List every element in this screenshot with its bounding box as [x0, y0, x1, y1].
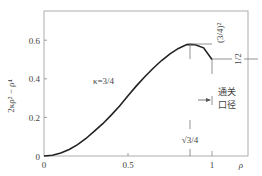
- half-value-label: 1/2: [233, 53, 243, 65]
- kappa-label: κ=3/4: [93, 76, 115, 86]
- x-tick-label: 1: [210, 160, 215, 170]
- x-ticks: [128, 151, 212, 156]
- y-tick-label: 0.2: [29, 113, 40, 123]
- chart: 0 0.2 0.4 0.6 0 0.5 1 ρ 2κρ² − ρ⁴ (3/4)²…: [0, 0, 262, 176]
- aperture-label-1: 通关: [218, 86, 236, 97]
- aperture-arrow-icon: [198, 98, 211, 102]
- x-tick-label: 0.5: [122, 160, 134, 170]
- sqrt-label: √3/4: [182, 135, 199, 145]
- half-marker: [212, 59, 258, 105]
- x-axis-label: ρ: [238, 160, 244, 170]
- y-axis-label: 2κρ² − ρ⁴: [6, 79, 16, 112]
- aperture-label-2: 口径: [218, 99, 236, 110]
- y-tick-label: 0.4: [29, 74, 41, 84]
- y-ticks: [44, 40, 47, 117]
- y-tick-label: 0: [36, 152, 41, 162]
- x-tick-label: 0: [42, 160, 47, 170]
- y-tick-label: 0.6: [29, 36, 41, 46]
- max-value-label: (3/4)²: [215, 23, 225, 43]
